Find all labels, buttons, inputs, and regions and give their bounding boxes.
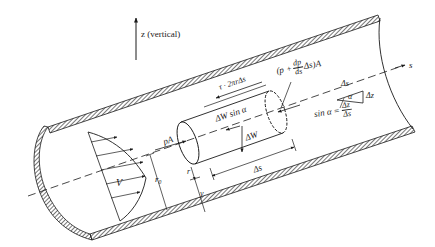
distance-from-wall-label: y [200, 190, 204, 198]
fluid-element-cylinder [173, 88, 292, 166]
triangle-rise-label: Δz [366, 92, 374, 100]
pipe-left-section [34, 126, 92, 240]
pipe-bottom-wall [90, 126, 415, 240]
dp-denominator: ds [295, 67, 303, 76]
sin-denominator: Δs [343, 110, 352, 119]
pipe-flow-diagram: z (vertical) s τ · 2πrΔs ΔW sin α ΔW pA … [0, 0, 435, 247]
dp-prefix: (p + [276, 64, 293, 76]
pipe-radius-label: r₀ [155, 175, 162, 184]
radius-label: r [187, 168, 190, 176]
sin-prefix: sin α = [314, 106, 341, 119]
dp-suffix: Δs)A [303, 59, 322, 71]
pipe-right-end [379, 18, 413, 129]
z-axis-label: z (vertical) [141, 30, 180, 39]
triangle-hyp-label: Δs [341, 80, 349, 88]
downstream-pressure-arrow [278, 82, 300, 112]
s-axis-label: s [409, 61, 413, 70]
diagram-drawing [0, 0, 435, 247]
velocity-label: V [116, 178, 122, 188]
